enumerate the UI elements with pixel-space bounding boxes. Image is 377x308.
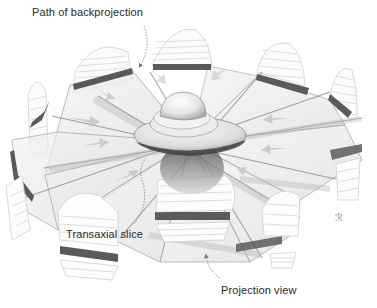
label-path-of-backprojection: Path of backprojection	[32, 6, 143, 18]
label-transaxial-slice: Transaxial slice	[66, 228, 143, 240]
artist-signature: ℛ	[335, 212, 343, 223]
diagram-artwork	[0, 0, 377, 308]
leader-path-of-backprojection	[140, 26, 147, 66]
label-projection-view: Projection view	[221, 284, 296, 296]
backprojection-diagram: Path of backprojection Transaxial slice …	[0, 0, 377, 308]
